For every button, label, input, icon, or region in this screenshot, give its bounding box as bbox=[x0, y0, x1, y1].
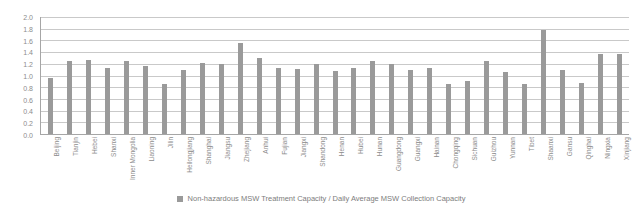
bar-slot bbox=[41, 17, 60, 134]
bar[interactable] bbox=[541, 30, 546, 134]
x-axis-tick: Shanghai bbox=[192, 137, 211, 189]
x-axis-tick: Henan bbox=[325, 137, 344, 189]
x-axis-tick: Jiangxi bbox=[287, 137, 306, 189]
bar[interactable] bbox=[48, 78, 53, 134]
x-axis-tick: Hunan bbox=[363, 137, 382, 189]
bar[interactable] bbox=[333, 71, 338, 134]
x-axis-tick: Shanxi bbox=[97, 137, 116, 189]
x-axis-tick: Guangxi bbox=[401, 137, 420, 189]
bar[interactable] bbox=[503, 72, 508, 134]
bar[interactable] bbox=[295, 69, 300, 134]
plot-area bbox=[40, 17, 629, 135]
x-axis-tick: Hainan bbox=[420, 137, 439, 189]
x-axis-tick-label: Xinjiang bbox=[623, 137, 630, 160]
x-axis-tick: Fujian bbox=[268, 137, 287, 189]
bar-slot bbox=[117, 17, 136, 134]
x-axis-tick: Inner Mongolia bbox=[116, 137, 135, 189]
bar-slot bbox=[231, 17, 250, 134]
bar[interactable] bbox=[105, 68, 110, 134]
bar[interactable] bbox=[314, 64, 319, 134]
x-axis-tick: Chongqing bbox=[439, 137, 458, 189]
x-axis-tick: Yunnan bbox=[496, 137, 515, 189]
bar-slot bbox=[60, 17, 79, 134]
x-axis: BeijingTianjinHebeiShanxiInner MongoliaL… bbox=[40, 137, 629, 189]
bar-slot bbox=[307, 17, 326, 134]
bar[interactable] bbox=[276, 68, 281, 134]
bar[interactable] bbox=[67, 61, 72, 134]
bar[interactable] bbox=[162, 84, 167, 134]
bar-slot bbox=[458, 17, 477, 134]
bar[interactable] bbox=[617, 54, 622, 134]
bar[interactable] bbox=[181, 70, 186, 134]
legend-label: Non-hazardous MSW Treatment Capacity / D… bbox=[188, 194, 466, 203]
bar-slot bbox=[155, 17, 174, 134]
bar[interactable] bbox=[219, 64, 224, 134]
bar-slot bbox=[193, 17, 212, 134]
x-axis-tick: Jiangsu bbox=[211, 137, 230, 189]
bar-slot bbox=[477, 17, 496, 134]
bar-slot bbox=[136, 17, 155, 134]
bar-slot bbox=[515, 17, 534, 134]
bar[interactable] bbox=[427, 68, 432, 134]
bar[interactable] bbox=[200, 63, 205, 134]
bar-slot bbox=[382, 17, 401, 134]
chart-legend: Non-hazardous MSW Treatment Capacity / D… bbox=[0, 194, 642, 203]
x-axis-tick: Shandong bbox=[306, 137, 325, 189]
bar-slot bbox=[439, 17, 458, 134]
bar-slot bbox=[250, 17, 269, 134]
x-axis-tick: Zhejiang bbox=[230, 137, 249, 189]
bar-slot bbox=[98, 17, 117, 134]
x-axis-tick: Guangdong bbox=[382, 137, 401, 189]
x-axis-tick: Tianjin bbox=[59, 137, 78, 189]
bar-slot bbox=[269, 17, 288, 134]
bar[interactable] bbox=[522, 84, 527, 134]
bar-slot bbox=[79, 17, 98, 134]
y-axis-tick-label: 0.0 bbox=[23, 132, 33, 139]
bar[interactable] bbox=[465, 81, 470, 134]
legend-swatch-icon bbox=[177, 196, 183, 202]
x-axis-tick: Gansu bbox=[553, 137, 572, 189]
bar[interactable] bbox=[351, 68, 356, 134]
y-axis-tick-label: 1.4 bbox=[23, 49, 33, 56]
bar[interactable] bbox=[124, 61, 129, 134]
x-axis-tick: Anhui bbox=[249, 137, 268, 189]
bar-slot bbox=[591, 17, 610, 134]
x-axis-tick: Qinghai bbox=[572, 137, 591, 189]
y-axis-tick-label: 2.0 bbox=[23, 14, 33, 21]
bar[interactable] bbox=[370, 61, 375, 134]
bar-chart: 2.01.81.61.41.21.00.80.60.40.20.0 Beijin… bbox=[0, 0, 642, 212]
x-axis-tick: Liaoning bbox=[135, 137, 154, 189]
x-axis-tick: Ningxia bbox=[591, 137, 610, 189]
bar[interactable] bbox=[257, 58, 262, 134]
y-axis-tick-label: 1.8 bbox=[23, 25, 33, 32]
bar-slot bbox=[553, 17, 572, 134]
bar[interactable] bbox=[389, 64, 394, 134]
bar-slot bbox=[534, 17, 553, 134]
bar[interactable] bbox=[579, 83, 584, 134]
x-axis-tick: Hebei bbox=[78, 137, 97, 189]
bar[interactable] bbox=[446, 84, 451, 134]
bar[interactable] bbox=[408, 70, 413, 134]
bar-slot bbox=[572, 17, 591, 134]
y-axis-tick-label: 0.4 bbox=[23, 108, 33, 115]
y-axis-tick-label: 0.8 bbox=[23, 84, 33, 91]
x-axis-tick: Jilin bbox=[154, 137, 173, 189]
x-axis-tick: Guizhou bbox=[477, 137, 496, 189]
bar[interactable] bbox=[143, 66, 148, 134]
bar-slot bbox=[610, 17, 629, 134]
bar-slot bbox=[326, 17, 345, 134]
y-axis-tick-label: 0.2 bbox=[23, 120, 33, 127]
bar[interactable] bbox=[238, 43, 243, 134]
bar-slot bbox=[174, 17, 193, 134]
y-axis: 2.01.81.61.41.21.00.80.60.40.20.0 bbox=[0, 17, 36, 135]
bar-slot bbox=[288, 17, 307, 134]
y-axis-tick-label: 0.6 bbox=[23, 96, 33, 103]
bar[interactable] bbox=[598, 54, 603, 134]
bar-slot bbox=[401, 17, 420, 134]
bar[interactable] bbox=[86, 60, 91, 134]
bar[interactable] bbox=[484, 61, 489, 134]
bar-slot bbox=[496, 17, 515, 134]
bar-series bbox=[41, 17, 629, 134]
bar[interactable] bbox=[560, 70, 565, 134]
y-axis-tick-label: 1.0 bbox=[23, 73, 33, 80]
